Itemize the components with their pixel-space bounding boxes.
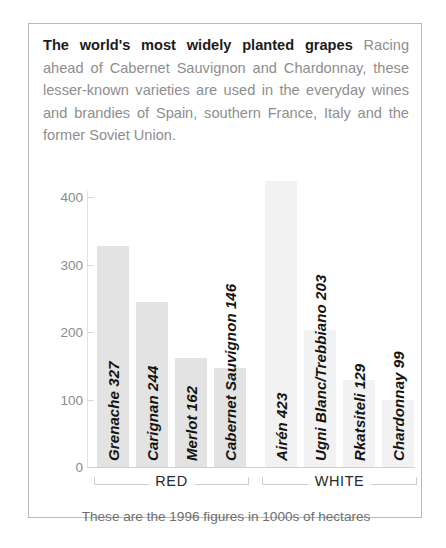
- bar-label: Airén 423: [273, 393, 290, 461]
- bar-chart: 0100200300400 Grenache 327Carignan 244Me…: [29, 24, 423, 519]
- bar-label: Chardonnay 99: [390, 351, 407, 461]
- bar-label: Ugni Blanc/Trebbiano 203: [312, 275, 329, 461]
- bar-carignan: Carignan 244: [136, 302, 168, 467]
- bar-cabernet-sauvignon: Cabernet Sauvignon 146: [214, 368, 246, 467]
- bar-series: Grenache 327Carignan 244Merlot 162Cabern…: [29, 24, 423, 519]
- bar-air-n: Airén 423: [265, 181, 297, 467]
- group-label: RED: [148, 473, 194, 489]
- group-label: WHITE: [308, 473, 372, 489]
- chart-footnote: These are the 1996 figures in 1000s of h…: [29, 509, 423, 524]
- bar-label: Merlot 162: [183, 386, 200, 461]
- bar-label: Carignan 244: [144, 366, 161, 461]
- group-bracket-white: WHITE: [262, 475, 417, 497]
- bar-ugni-blanc-trebbiano: Ugni Blanc/Trebbiano 203: [304, 330, 336, 467]
- bar-rkatsiteli: Rkatsiteli 129: [343, 380, 375, 467]
- chart-card: The world's most widely planted grapes R…: [28, 23, 422, 518]
- bar-label: Rkatsiteli 129: [351, 364, 368, 461]
- bar-merlot: Merlot 162: [175, 358, 207, 467]
- bar-label: Grenache 327: [105, 361, 122, 461]
- bar-grenache: Grenache 327: [97, 246, 129, 467]
- bar-label: Cabernet Sauvignon 146: [222, 284, 239, 461]
- group-bracket-red: RED: [94, 475, 249, 497]
- bar-chardonnay: Chardonnay 99: [382, 400, 414, 467]
